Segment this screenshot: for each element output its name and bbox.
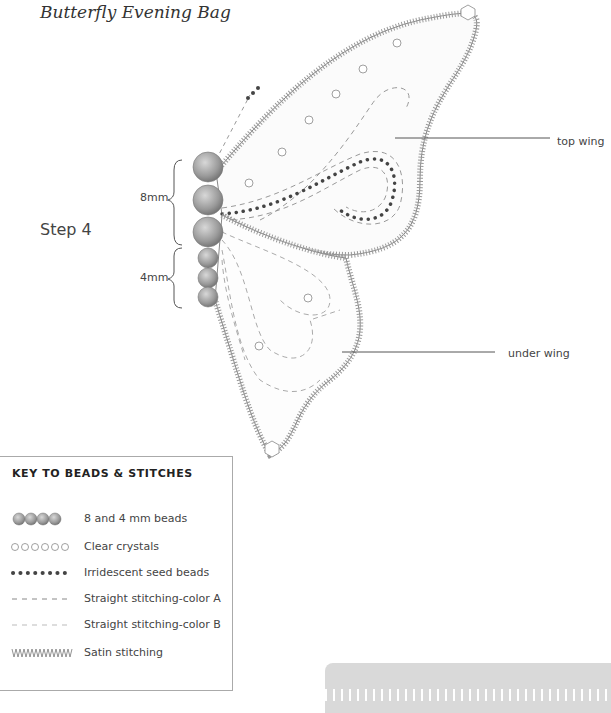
dash-b-icon (10, 618, 74, 632)
legend-label: Satin stitching (84, 646, 163, 659)
dash-a-icon (10, 592, 74, 606)
legend-item-satin: Satin stitching (0, 643, 232, 663)
legend-label: Clear crystals (84, 540, 159, 553)
legend-item-seed-beads: Irridescent seed beads (0, 563, 232, 583)
brace-8mm (168, 160, 182, 245)
legend-item-stitch-b: Straight stitching-color B (0, 615, 232, 635)
legend-label: 8 and 4 mm beads (84, 512, 187, 525)
footer-banner (325, 663, 611, 713)
legend-item-stitch-a: Straight stitching-color A (0, 589, 232, 609)
legend-label: Straight stitching-color B (84, 618, 221, 631)
satin-stitch-icon (10, 646, 74, 660)
banner-edge-decoration (325, 689, 611, 701)
top-wing (216, 5, 477, 255)
beads-icon (10, 512, 74, 526)
legend-label: Irridescent seed beads (84, 566, 209, 579)
legend-label: Straight stitching-color A (84, 592, 221, 605)
brace-4mm (168, 248, 182, 308)
legend-item-crystals: Clear crystals (0, 537, 232, 557)
legend-title: KEY TO BEADS & STITCHES (12, 467, 193, 480)
legend-box: KEY TO BEADS & STITCHES 8 and 4 mm beads… (0, 456, 233, 691)
crystal-icon (10, 540, 74, 554)
seed-bead-icon (10, 566, 74, 580)
legend-item-beads: 8 and 4 mm beads (0, 509, 232, 529)
